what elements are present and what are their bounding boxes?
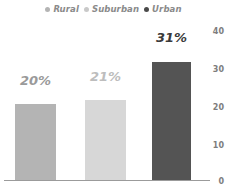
legend-label-suburban: Suburban [92,5,139,14]
legend-item-suburban: Suburban [84,5,139,14]
dot-marker-suburban-icon [84,7,89,12]
legend-label-rural: Rural [53,5,78,14]
bar-rect-urban [152,62,191,180]
chart-legend: Rural Suburban Urban [0,1,227,17]
y-tick-0: 0 [198,178,224,186]
legend-label-urban: Urban [152,5,181,14]
plot-area: 20% 21% 31% 40 30 20 10 0 [0,17,227,195]
x-axis-line [4,180,210,181]
bar-urban: 31% [152,49,191,180]
y-tick-30: 30 [198,66,224,74]
bar-suburban: 21% [85,87,126,180]
bar-label-rural: 20% [15,74,56,87]
dot-marker-urban-icon [144,7,149,12]
bar-chart: Rural Suburban Urban 20% 21% 31% 40 30 [0,0,227,195]
bar-rect-rural [15,104,56,180]
y-tick-10: 10 [198,142,224,150]
dot-marker-rural-icon [45,7,50,12]
legend-item-urban: Urban [144,5,181,14]
bar-label-urban: 31% [152,31,191,44]
y-tick-40: 40 [198,28,224,36]
bar-label-suburban: 21% [85,70,126,83]
legend-item-rural: Rural [45,5,78,14]
bar-rect-suburban [85,100,126,180]
y-tick-20: 20 [198,104,224,112]
bar-rural: 20% [15,91,56,180]
